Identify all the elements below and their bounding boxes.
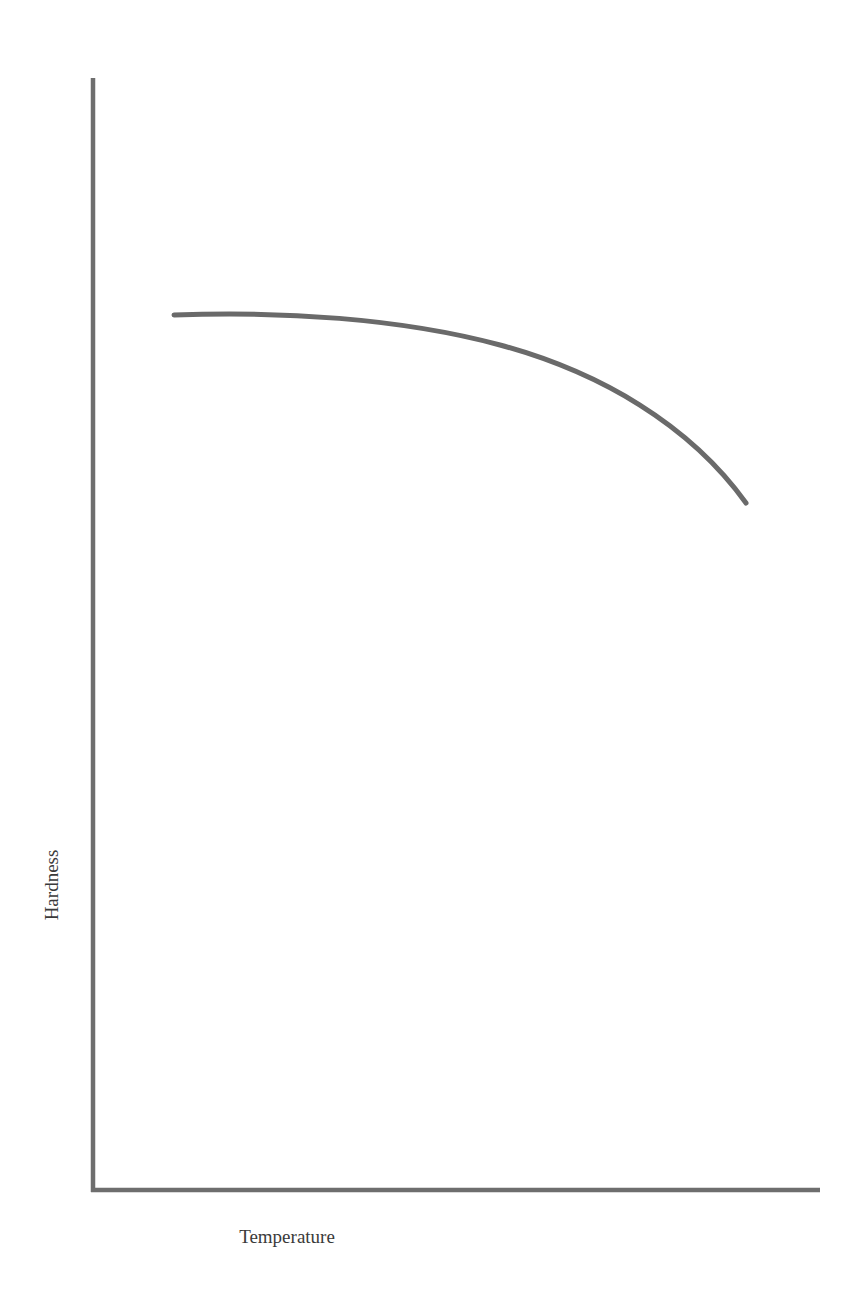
chart-canvas	[0, 0, 868, 1314]
x-axis-label: Temperature	[239, 1226, 335, 1248]
y-axis-label: Hardness	[41, 850, 63, 921]
hardness-curve	[174, 314, 746, 503]
